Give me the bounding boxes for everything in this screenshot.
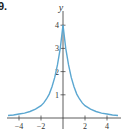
y-tick-label: 1 [55, 91, 59, 100]
y-tick-label: 4 [55, 21, 59, 30]
y-axis-label: y [58, 2, 64, 13]
y-tick-label: 3 [55, 44, 59, 53]
x-tick-label: −2 [37, 122, 46, 131]
line-chart: y−4−2241234 [0, 0, 121, 136]
x-tick-label: 4 [105, 122, 109, 131]
x-tick-label: −4 [15, 122, 24, 131]
x-tick-label: 2 [83, 122, 87, 131]
axes: y−4−2241234 [7, 2, 121, 131]
